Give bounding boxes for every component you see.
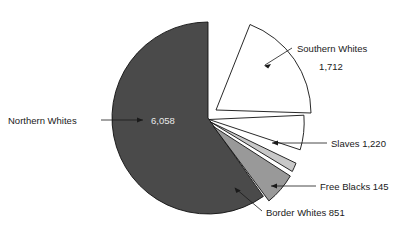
pie-slice-southern-whites[interactable] [216, 25, 311, 114]
label-southern-whites: Southern Whites [297, 43, 367, 54]
value-northern-whites: 6,058 [151, 115, 175, 126]
label-free-blacks: Free Blacks 145 [320, 181, 389, 192]
pie-chart-svg: Northern Whites 6,058 Southern Whites 1,… [0, 0, 397, 234]
value-southern-whites: 1,712 [319, 61, 343, 72]
pie-chart: Northern Whites 6,058 Southern Whites 1,… [0, 0, 397, 234]
label-slaves: Slaves 1,220 [331, 138, 386, 149]
label-northern-whites: Northern Whites [8, 115, 77, 126]
label-border-whites: Border Whites 851 [266, 207, 345, 218]
